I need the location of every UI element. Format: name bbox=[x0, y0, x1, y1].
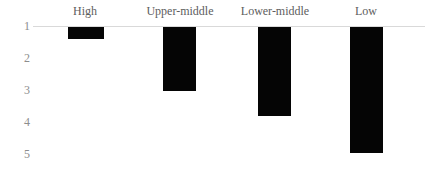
y-tick-label-3: 3 bbox=[8, 84, 30, 96]
category-label-low: Low bbox=[326, 4, 406, 18]
bar-upper-middle bbox=[163, 27, 196, 91]
bar-high bbox=[68, 27, 104, 39]
bar-lower-middle bbox=[258, 27, 291, 116]
category-label-lower-middle: Lower-middle bbox=[227, 4, 323, 18]
plot-area: 1 2 3 4 5 High Upper-middle Lower-middle… bbox=[0, 0, 433, 175]
y-tick-label-4: 4 bbox=[8, 116, 30, 128]
y-tick-label-2: 2 bbox=[8, 52, 30, 64]
category-label-high: High bbox=[45, 4, 125, 18]
y-tick-label-1: 1 bbox=[8, 20, 30, 32]
bar-low bbox=[350, 27, 383, 153]
bar-chart: 1 2 3 4 5 High Upper-middle Lower-middle… bbox=[0, 0, 433, 175]
y-tick-label-5: 5 bbox=[8, 148, 30, 160]
category-label-upper-middle: Upper-middle bbox=[132, 4, 228, 18]
